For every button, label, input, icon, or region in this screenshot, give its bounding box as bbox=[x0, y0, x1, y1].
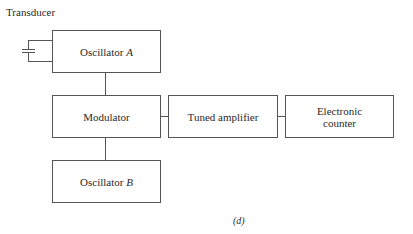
oscillator-a-block: Oscillator A bbox=[52, 30, 161, 73]
oscillator-b-text: Oscillator bbox=[80, 176, 123, 188]
oscillator-a-text: Oscillator bbox=[80, 46, 123, 58]
capacitor-icon bbox=[0, 0, 60, 80]
oscillator-b-label: Oscillator B bbox=[80, 176, 133, 188]
oscillator-a-label: Oscillator A bbox=[80, 46, 133, 58]
electronic-counter-line2: counter bbox=[317, 117, 362, 129]
connector-amplifier-counter bbox=[278, 116, 285, 117]
oscillator-b-var: B bbox=[126, 176, 133, 188]
electronic-counter-block: Electronic counter bbox=[285, 95, 394, 138]
connector-modulator-osc-b bbox=[105, 138, 106, 160]
oscillator-b-block: Oscillator B bbox=[52, 160, 161, 203]
oscillator-a-var: A bbox=[126, 46, 133, 58]
tuned-amplifier-block: Tuned amplifier bbox=[168, 95, 278, 138]
electronic-counter-line1: Electronic bbox=[317, 105, 362, 117]
connector-modulator-amplifier bbox=[161, 116, 168, 117]
tuned-amplifier-label: Tuned amplifier bbox=[188, 111, 259, 123]
modulator-block: Modulator bbox=[52, 95, 161, 138]
figure-caption: (d) bbox=[233, 215, 245, 226]
connector-osc-a-modulator bbox=[105, 73, 106, 95]
modulator-label: Modulator bbox=[83, 111, 129, 123]
electronic-counter-label: Electronic counter bbox=[317, 105, 362, 129]
